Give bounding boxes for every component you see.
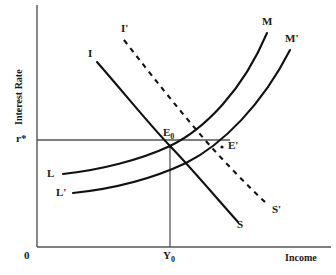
equilibrium-label-e0: E0 — [163, 127, 174, 141]
equilibrium-point-eprime — [220, 145, 223, 148]
y0-label-main: Y — [163, 249, 171, 261]
y0-label-sub: 0 — [171, 255, 175, 264]
is-curve-label-s: S — [237, 219, 243, 230]
equilibrium-label-e0-sub: 0 — [170, 132, 174, 141]
y-axis-title: Interest Rate — [14, 69, 24, 125]
y0-label: Y0 — [163, 250, 175, 264]
equilibrium-point-e0 — [168, 144, 171, 147]
lm-curve — [63, 33, 267, 174]
origin-label: 0 — [24, 250, 30, 261]
lm-curve-label-m: M — [262, 16, 272, 27]
equilibrium-label-e-prime: E' — [228, 140, 238, 151]
is-shifted-label-i-prime: I' — [121, 23, 128, 34]
r-star-label: r* — [16, 133, 26, 144]
is-curve-label-i: I — [88, 48, 92, 59]
lm-shifted-label-l-prime: L' — [56, 187, 66, 198]
x-axis-title: Income — [285, 253, 317, 263]
is-shifted-label-s-prime: S' — [272, 204, 281, 215]
lm-curve-label-l: L — [47, 168, 54, 179]
lm-shifted-label-m-prime: M' — [285, 33, 298, 44]
is-lm-diagram: Interest Rate Income 0 r* Y0 I S I' S' L… — [0, 0, 336, 275]
